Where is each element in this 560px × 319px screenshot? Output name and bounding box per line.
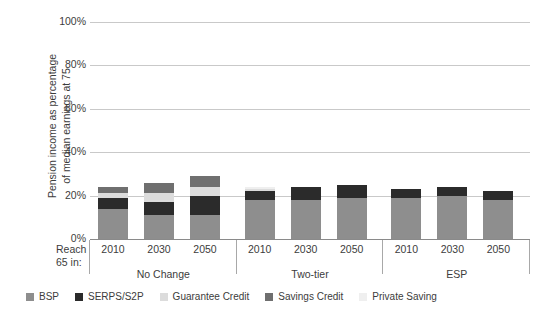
bar-two-tier-2050[interactable] bbox=[337, 185, 367, 239]
bar-esp-2010[interactable] bbox=[391, 189, 421, 239]
bar-esp-2050[interactable] bbox=[483, 191, 513, 239]
bar-segment-bsp bbox=[144, 215, 174, 239]
bar-segment-serps-s2p bbox=[190, 196, 220, 216]
bar-segment-serps-s2p bbox=[245, 191, 275, 200]
gridline bbox=[90, 65, 530, 66]
legend-item-savings-credit[interactable]: Savings Credit bbox=[265, 291, 343, 302]
bar-no-change-2030[interactable] bbox=[144, 183, 174, 239]
bar-segment-serps-s2p bbox=[437, 187, 467, 196]
x-axis-tick-label: 2010 bbox=[238, 243, 282, 255]
bar-no-change-2050[interactable] bbox=[190, 176, 220, 239]
legend-swatch-icon bbox=[160, 293, 168, 301]
legend-item-guarantee-credit[interactable]: Guarantee Credit bbox=[160, 291, 250, 302]
bar-two-tier-2010[interactable] bbox=[245, 187, 275, 239]
bar-segment-bsp bbox=[245, 200, 275, 239]
legend-swatch-icon bbox=[75, 293, 83, 301]
bar-segment-serps-s2p bbox=[483, 191, 513, 200]
x-axis-tick-label: 2030 bbox=[284, 243, 328, 255]
bar-segment-guarantee-credit bbox=[190, 187, 220, 196]
legend-swatch-icon bbox=[359, 293, 367, 301]
bar-no-change-2010[interactable] bbox=[98, 187, 128, 239]
chart-container: Pension income as percentage of median e… bbox=[0, 0, 560, 319]
y-axis-tick-label: 20% bbox=[58, 189, 86, 201]
bar-esp-2030[interactable] bbox=[437, 187, 467, 239]
y-axis-tick-label: 100% bbox=[58, 15, 86, 27]
x-axis-tick-label: 2030 bbox=[430, 243, 474, 255]
group-label-esp: ESP bbox=[382, 268, 532, 280]
bar-segment-bsp bbox=[337, 198, 367, 239]
x-axis-tick-label: 2050 bbox=[330, 243, 374, 255]
bar-segment-savings-credit bbox=[144, 183, 174, 194]
bar-segment-bsp bbox=[483, 200, 513, 239]
bar-segment-bsp bbox=[437, 196, 467, 239]
legend-swatch-icon bbox=[265, 293, 273, 301]
chart-legend: BSPSERPS/S2PGuarantee CreditSavings Cred… bbox=[26, 291, 536, 302]
y-axis-tick-label: 40% bbox=[58, 145, 86, 157]
x-axis-tick-label: 2010 bbox=[384, 243, 428, 255]
group-label-no-change: No Change bbox=[88, 268, 238, 280]
x-axis-tick-label: 2050 bbox=[476, 243, 520, 255]
bar-segment-bsp bbox=[190, 215, 220, 239]
x-axis-line bbox=[90, 239, 530, 240]
legend-item-private-saving[interactable]: Private Saving bbox=[359, 291, 436, 302]
bar-segment-bsp bbox=[98, 209, 128, 239]
y-axis-tick-label: 60% bbox=[58, 102, 86, 114]
legend-label: BSP bbox=[39, 291, 59, 302]
bar-segment-bsp bbox=[391, 198, 421, 239]
bar-two-tier-2030[interactable] bbox=[291, 187, 321, 239]
legend-item-bsp[interactable]: BSP bbox=[26, 291, 59, 302]
bar-segment-serps-s2p bbox=[144, 202, 174, 215]
bar-segment-guarantee-credit bbox=[144, 193, 174, 202]
plot-area bbox=[90, 22, 530, 239]
gridline bbox=[90, 109, 530, 110]
legend-label: SERPS/S2P bbox=[88, 291, 144, 302]
legend-label: Private Saving bbox=[372, 291, 436, 302]
bar-segment-serps-s2p bbox=[291, 187, 321, 200]
x-axis-tick-label: 2010 bbox=[91, 243, 135, 255]
y-axis-tick-label: 80% bbox=[58, 58, 86, 70]
gridline bbox=[90, 22, 530, 23]
reach-age-label: Reach 65 in: bbox=[56, 243, 90, 269]
bar-segment-serps-s2p bbox=[391, 189, 421, 198]
bar-segment-savings-credit bbox=[190, 176, 220, 187]
x-axis-tick-label: 2050 bbox=[183, 243, 227, 255]
x-axis-tick-label: 2030 bbox=[137, 243, 181, 255]
legend-label: Guarantee Credit bbox=[173, 291, 250, 302]
legend-item-serps-s2p[interactable]: SERPS/S2P bbox=[75, 291, 144, 302]
legend-label: Savings Credit bbox=[278, 291, 343, 302]
bar-segment-serps-s2p bbox=[98, 198, 128, 209]
gridline bbox=[90, 152, 530, 153]
legend-swatch-icon bbox=[26, 293, 34, 301]
bar-segment-serps-s2p bbox=[337, 185, 367, 198]
group-label-two-tier: Two-tier bbox=[235, 268, 385, 280]
bar-segment-bsp bbox=[291, 200, 321, 239]
